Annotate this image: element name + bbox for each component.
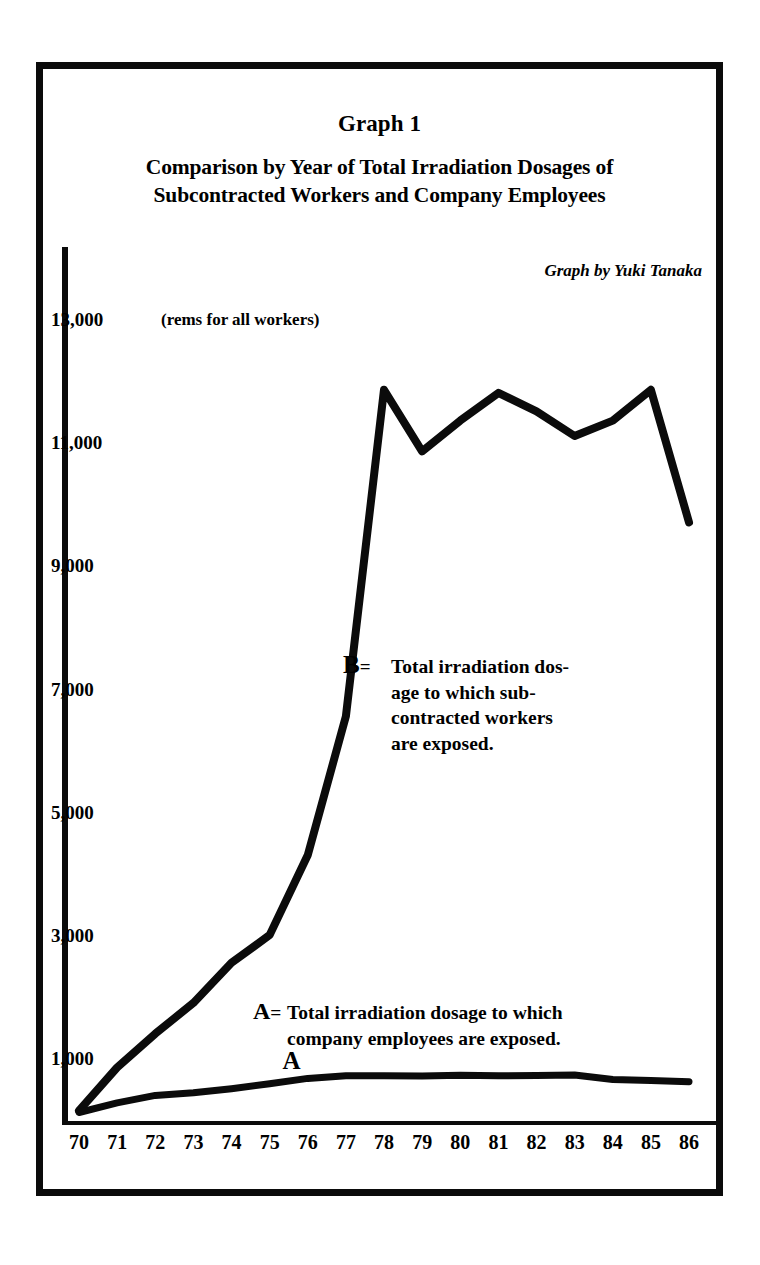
y-axis-tick-13000: 13,000 <box>51 309 103 331</box>
legend-b-line-2: age to which sub- <box>391 680 673 706</box>
legend-b-line-1: Total irradiation dos- <box>391 654 673 680</box>
legend-b-equals: = <box>360 656 371 677</box>
x-axis-tick-85: 85 <box>634 1131 668 1154</box>
legend-series-a: A= Total irradiation dosage to which com… <box>253 999 716 1051</box>
x-axis-tick-84: 84 <box>596 1131 630 1154</box>
figure-border-frame: Graph 1 Comparison by Year of Total Irra… <box>36 62 723 1196</box>
legend-a-key: A <box>253 998 270 1024</box>
legend-b-line-3: contracted workers <box>391 705 673 731</box>
x-axis-tick-71: 71 <box>100 1131 134 1154</box>
y-axis-tick-1000: 1,000 <box>51 1048 94 1070</box>
x-axis-tick-83: 83 <box>558 1131 592 1154</box>
series-a-inline-marker: A <box>283 1048 301 1073</box>
y-axis-unit-note: (rems for all workers) <box>161 310 319 330</box>
x-axis-tick-70: 70 <box>62 1131 96 1154</box>
x-axis-tick-81: 81 <box>481 1131 515 1154</box>
legend-b-line-4: are exposed. <box>391 731 673 757</box>
x-axis-tick-78: 78 <box>367 1131 401 1154</box>
figure-content-area: Graph 1 Comparison by Year of Total Irra… <box>43 69 716 1189</box>
x-axis-tick-79: 79 <box>405 1131 439 1154</box>
legend-a-line-2: company employees are exposed. <box>287 1026 716 1052</box>
x-axis-tick-labels: 7071727374757677787980818283848586 <box>43 1131 716 1171</box>
legend-b-key: B <box>343 651 360 678</box>
y-axis-tick-7000: 7,000 <box>51 679 94 701</box>
y-axis-tick-5000: 5,000 <box>51 802 94 824</box>
legend-b-text: Total irradiation dos- age to which sub-… <box>391 654 673 756</box>
series-a-line <box>79 1075 689 1112</box>
y-axis-tick-3000: 3,000 <box>51 925 94 947</box>
x-axis-tick-74: 74 <box>215 1131 249 1154</box>
x-axis-tick-80: 80 <box>443 1131 477 1154</box>
x-axis-tick-73: 73 <box>176 1131 210 1154</box>
legend-a-equals: = <box>270 1002 281 1023</box>
x-axis-tick-77: 77 <box>329 1131 363 1154</box>
legend-a-line-1: Total irradiation dosage to which <box>287 1000 716 1026</box>
figure-page: Graph 1 Comparison by Year of Total Irra… <box>0 0 760 1265</box>
x-axis-tick-86: 86 <box>672 1131 706 1154</box>
y-axis-tick-11000: 11,000 <box>51 432 102 454</box>
x-axis-tick-75: 75 <box>253 1131 287 1154</box>
x-axis-line <box>62 1121 716 1125</box>
y-axis-tick-9000: 9,000 <box>51 555 94 577</box>
x-axis-tick-82: 82 <box>520 1131 554 1154</box>
legend-series-b: B= Total irradiation dos- age to which s… <box>343 652 673 756</box>
x-axis-tick-72: 72 <box>138 1131 172 1154</box>
x-axis-tick-76: 76 <box>291 1131 325 1154</box>
legend-a-text: Total irradiation dosage to which compan… <box>287 1000 716 1051</box>
